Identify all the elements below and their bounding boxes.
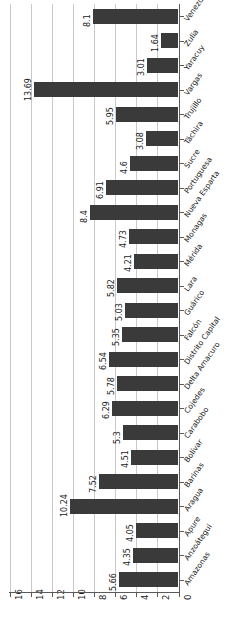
bar xyxy=(146,131,179,146)
bar xyxy=(99,474,178,489)
value-axis-tick-label: 0 xyxy=(183,595,193,600)
bar xyxy=(90,205,179,220)
category-axis-label: Vargas xyxy=(182,71,204,97)
bar xyxy=(131,450,179,465)
value-axis-tick-label: 4 xyxy=(140,595,150,600)
value-axis-tick-label: 2 xyxy=(161,595,171,600)
value-axis-tick xyxy=(73,593,74,597)
value-axis-tick xyxy=(94,593,95,597)
value-axis-tick-label: 6 xyxy=(119,595,129,600)
bar-value-label: 5.82 xyxy=(107,279,116,297)
bar-value-label: 13.69 xyxy=(24,78,33,101)
category-axis-line xyxy=(179,4,180,592)
bar xyxy=(112,401,178,416)
bar xyxy=(133,548,179,563)
value-axis-tick xyxy=(31,593,32,597)
bar-value-label: 4.73 xyxy=(119,230,128,248)
bar xyxy=(93,9,179,24)
bar xyxy=(134,254,178,269)
value-axis-tick xyxy=(136,593,137,597)
bar-value-label: 4.51 xyxy=(121,450,130,468)
bar-value-label: 8.1 xyxy=(83,15,92,28)
bar-value-label: 3.01 xyxy=(137,58,146,76)
bar-value-label: 1.64 xyxy=(151,34,160,52)
plot-area: 16141210864208.1Venezuela1.64Zulia3.01Ya… xyxy=(0,0,242,626)
category-axis-label: Guárico xyxy=(182,288,206,317)
bar-value-label: 4.6 xyxy=(120,162,129,175)
value-axis-line xyxy=(9,592,180,593)
bar-value-label: 7.52 xyxy=(89,475,98,493)
value-axis-tick-label: 14 xyxy=(35,589,45,600)
value-axis-tick-label: 16 xyxy=(14,589,24,600)
bar-value-label: 6.91 xyxy=(96,181,105,199)
bar xyxy=(129,229,179,244)
bar-value-label: 6.54 xyxy=(99,352,108,370)
value-axis-tick xyxy=(10,593,11,597)
bar xyxy=(106,180,179,195)
bar xyxy=(125,303,178,318)
bar xyxy=(34,82,179,97)
category-axis-label: Barinas xyxy=(182,461,206,489)
bar-value-label: 5.03 xyxy=(115,303,124,321)
value-axis-tick xyxy=(157,593,158,597)
bar xyxy=(70,499,178,514)
bar-value-label: 10.24 xyxy=(60,494,69,517)
bar xyxy=(116,107,179,122)
gridline xyxy=(10,4,11,592)
bar-value-label: 5.3 xyxy=(113,431,122,444)
bar-value-label: 4.21 xyxy=(124,254,133,272)
bar xyxy=(117,278,178,293)
category-axis-label: Yaracuy xyxy=(182,43,206,72)
value-axis-tick xyxy=(52,593,53,597)
bar xyxy=(130,156,179,171)
bar-value-label: 5.66 xyxy=(109,573,118,591)
bar-value-label: 4.05 xyxy=(126,524,135,542)
bar xyxy=(122,327,179,342)
value-axis-tick xyxy=(179,593,180,597)
category-axis-label: Trujillo xyxy=(182,96,203,121)
bar xyxy=(117,376,178,391)
value-axis-tick xyxy=(115,593,116,597)
value-axis-tick-label: 12 xyxy=(56,589,66,600)
bar xyxy=(136,523,179,538)
bar xyxy=(123,425,179,440)
bar-value-label: 5.35 xyxy=(112,328,121,346)
bar xyxy=(161,33,178,48)
value-axis-tick-label: 10 xyxy=(77,589,87,600)
bar-value-label: 3.08 xyxy=(136,132,145,150)
category-axis-label: Táchira xyxy=(182,119,205,146)
bar xyxy=(147,58,179,73)
category-axis-label: Aragua xyxy=(182,486,205,513)
bar-value-label: 5.78 xyxy=(107,377,116,395)
category-axis-label: Bolívar xyxy=(182,438,204,464)
bar-chart: 16141210864208.1Venezuela1.64Zulia3.01Ya… xyxy=(0,0,242,626)
bar-value-label: 6.29 xyxy=(102,401,111,419)
bar-value-label: 5.95 xyxy=(106,107,115,125)
value-axis-tick-label: 8 xyxy=(98,595,108,600)
bar-value-label: 8.4 xyxy=(80,211,89,224)
bar-value-label: 4.35 xyxy=(123,548,132,566)
bar xyxy=(119,572,179,587)
category-axis-label: Venezuela xyxy=(182,0,211,23)
bar xyxy=(109,352,178,367)
category-axis-label: Mérida xyxy=(182,242,204,268)
